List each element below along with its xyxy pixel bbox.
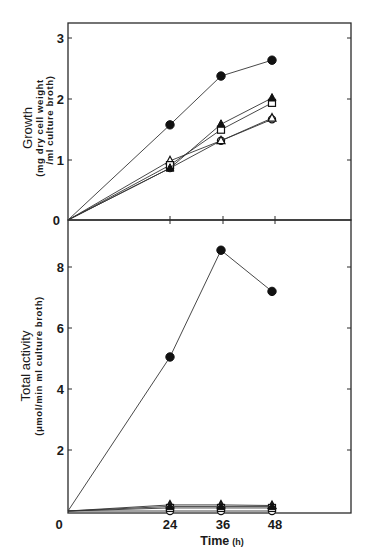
filled-circle-marker-icon (166, 121, 174, 129)
series-line (68, 250, 272, 511)
figure: 0 1 2 3 2 4 6 8 0 24 36 48 Time(h) Growt… (0, 0, 367, 557)
bottom-x-axis: 0 24 36 48 Time(h) (55, 517, 282, 548)
top-y-axis-label: Growth (mg dry cell weight /ml culture b… (20, 76, 55, 177)
top-plot-series (68, 56, 276, 220)
bottom-y-axis-label: Total activity (μmol/min ml culture brot… (18, 296, 44, 436)
x-axis-label: Time(h) (200, 534, 243, 548)
bottom-plot-series (68, 246, 276, 515)
filled-circle-marker-icon (166, 353, 174, 361)
filled-circle-marker-icon (268, 56, 276, 64)
bottom-ylabel-sub: (μmol/min ml culture broth) (33, 296, 44, 436)
bottom-ytick-8: 8 (57, 260, 64, 275)
top-ytick-0: 0 (53, 213, 60, 228)
filled-circle-marker-icon (217, 246, 225, 254)
top-ytick-2: 2 (57, 92, 64, 107)
bottom-ytick-2: 2 (57, 443, 64, 458)
bottom-ytick-4: 4 (57, 382, 65, 397)
filled-circle-marker-icon (217, 72, 225, 80)
xtick-48: 48 (268, 517, 282, 532)
top-y-axis: 0 1 2 3 (53, 31, 351, 228)
top-ylabel-sub2: /ml culture broth) (44, 76, 55, 165)
bottom-ylabel: Total activity (18, 330, 33, 401)
filled-triangle-marker-icon (268, 94, 276, 102)
xtick-24: 24 (163, 517, 178, 532)
top-ylabel: Growth (20, 107, 35, 149)
bottom-plot-frame (68, 220, 351, 513)
top-plot-frame (68, 23, 351, 220)
xtick-0: 0 (55, 517, 62, 532)
filled-triangle-marker-icon (217, 120, 225, 128)
bottom-y-axis: 2 4 6 8 (57, 260, 351, 458)
bottom-ytick-6: 6 (57, 321, 64, 336)
xtick-36: 36 (216, 517, 230, 532)
top-ytick-3: 3 (57, 31, 64, 46)
filled-circle-marker-icon (268, 287, 276, 295)
series-line (68, 60, 272, 220)
top-ytick-1: 1 (57, 153, 64, 168)
